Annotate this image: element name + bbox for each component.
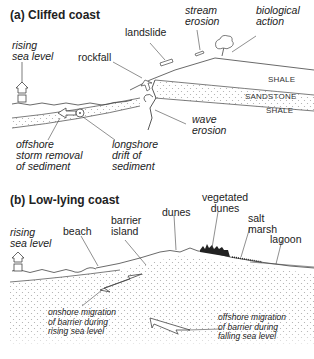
wave-erosion-icon — [144, 94, 153, 102]
offshore-migration-label: offshore migration of barrier during fal… — [218, 313, 286, 342]
label-line: erosion — [185, 16, 219, 27]
biological-action-label: biological action — [256, 5, 300, 27]
label-line: sediment — [112, 161, 158, 172]
label-line: erosion — [192, 125, 226, 136]
rising-sea-level-arrow-icon — [16, 62, 28, 102]
rising-sea-level-label-b: rising sea level — [10, 227, 51, 249]
lagoon-label: lagoon — [270, 234, 302, 245]
label-line: sea level — [12, 51, 53, 62]
stream-arrow-icon — [195, 51, 204, 56]
offshore-storm-removal-label: offshore storm removal of sediment — [16, 139, 83, 172]
label-line: rising sea level — [48, 327, 116, 337]
stream-erosion-label: stream erosion — [185, 5, 219, 27]
stratum-shale-lower: SHALE — [266, 106, 293, 115]
tree-icon — [216, 35, 234, 56]
rockfall-label: rockfall — [78, 52, 111, 63]
rockfall-arrow-icon — [141, 80, 152, 91]
dunes-label: dunes — [162, 207, 191, 218]
landslide-label: landslide — [125, 27, 166, 38]
label-line: dunes — [202, 203, 248, 214]
cliffed-coast-diagram — [12, 30, 314, 140]
vegetated-dunes-label: vegetated dunes — [202, 192, 248, 214]
stratum-sandstone: SANDSTONE — [245, 92, 296, 101]
rising-sea-level-arrow-icon-b — [12, 252, 24, 271]
label-line: island — [111, 226, 141, 237]
wave-erosion-label: wave erosion — [192, 114, 226, 136]
label-line: action — [256, 16, 300, 27]
salt-marsh-label: salt marsh — [248, 213, 277, 235]
panel-a-title: (a) Cliffed coast — [10, 8, 100, 22]
landslide-arrow-icon — [160, 59, 173, 66]
stratum-shale-upper: SHALE — [268, 75, 295, 84]
longshore-drift-label: longshore drift of sediment — [112, 139, 158, 172]
rising-sea-level-label: rising sea level — [12, 40, 53, 62]
onshore-migration-label: onshore migration of barrier during risi… — [48, 308, 116, 337]
label-line: sea level — [10, 238, 51, 249]
beach-label: beach — [63, 226, 92, 237]
label-line: of sediment — [16, 161, 83, 172]
vegetation-icon — [200, 244, 230, 257]
panel-b-title: (b) Low-lying coast — [10, 193, 119, 207]
barrier-island-label: barrier island — [111, 215, 141, 237]
label-line: falling sea level — [218, 332, 286, 342]
